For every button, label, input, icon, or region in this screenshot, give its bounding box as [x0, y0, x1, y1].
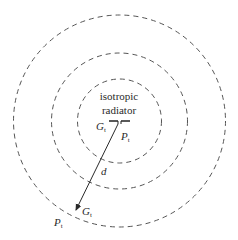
outer-wavefront-circle: [14, 15, 226, 227]
title-line1: isotropic: [100, 90, 139, 102]
middle-wavefront-circle: [52, 53, 188, 189]
tx-gain-label: Gt: [96, 120, 106, 134]
distance-arrow: [76, 124, 118, 210]
isotropic-radiator-diagram: isotropic radiator Gt Pt d Gt Pt: [0, 0, 238, 240]
rx-power-label: Pt: [53, 216, 63, 230]
radiator-antenna-icon: [109, 121, 130, 124]
distance-label: d: [101, 165, 107, 177]
title-line2: radiator: [102, 104, 137, 116]
rx-gain-label: Gt: [82, 205, 92, 219]
tx-power-label: Pt: [120, 130, 130, 144]
